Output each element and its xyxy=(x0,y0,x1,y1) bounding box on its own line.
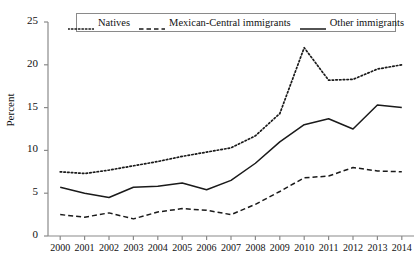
legend-label-mexican-central: Mexican-Central immigrants xyxy=(169,17,291,28)
x-axis-ticks xyxy=(60,236,402,240)
legend-label-natives: Natives xyxy=(98,17,130,28)
legend-item-natives: Natives xyxy=(68,17,130,28)
data-series-group xyxy=(60,48,402,219)
legend-swatch-solid-icon xyxy=(300,19,326,27)
legend-item-other: Other immigrants xyxy=(300,17,404,28)
plot-area xyxy=(0,0,419,263)
y-tick-label: 0 xyxy=(12,228,38,240)
legend-swatch-dashed-icon xyxy=(139,19,165,27)
chart-legend: Natives Mexican-Central immigrants Other… xyxy=(76,13,396,32)
series-line xyxy=(60,105,402,197)
y-tick-label: 25 xyxy=(12,14,38,26)
legend-swatch-dotted-icon xyxy=(68,19,94,27)
x-tick-label: 2014 xyxy=(385,242,419,253)
y-tick-label: 15 xyxy=(12,100,38,112)
legend-item-mexican-central: Mexican-Central immigrants xyxy=(139,17,291,28)
y-tick-label: 5 xyxy=(12,185,38,197)
series-line xyxy=(60,48,402,174)
line-chart: Percent 0510152025 200020012002200320042… xyxy=(0,0,419,263)
axis-lines xyxy=(48,22,414,236)
y-tick-label: 20 xyxy=(12,57,38,69)
legend-label-other: Other immigrants xyxy=(330,17,404,28)
series-line xyxy=(60,168,402,219)
y-tick-label: 10 xyxy=(12,142,38,154)
